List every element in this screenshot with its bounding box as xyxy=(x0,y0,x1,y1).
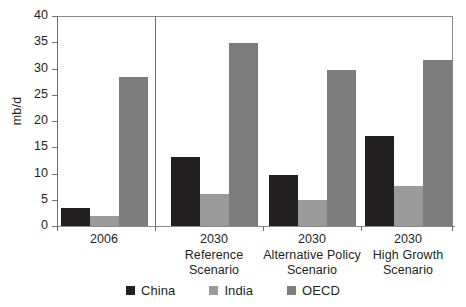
y-axis-tick-label: 0 xyxy=(41,218,48,232)
x-axis-tick xyxy=(263,226,264,231)
category-label-line: Scenario xyxy=(338,263,466,279)
y-axis-label: mb/d xyxy=(10,81,24,141)
chart-legend: ChinaIndiaOECD xyxy=(0,283,466,298)
y-axis-tick-label: 10 xyxy=(34,166,48,180)
y-axis-tick-label: 30 xyxy=(34,61,48,75)
x-axis-tick xyxy=(452,226,453,231)
category-label-line: High Growth xyxy=(338,248,466,264)
bar-china-2 xyxy=(269,175,298,226)
y-axis-tick-label: 15 xyxy=(34,139,48,153)
y-axis-tick-label: 25 xyxy=(34,87,48,101)
bar-china-0 xyxy=(61,208,90,226)
bar-india-1 xyxy=(200,194,229,226)
bar-chart: mb/d 0510152025303540 20062030ReferenceS… xyxy=(0,0,466,307)
y-axis-tick-label: 20 xyxy=(34,113,48,127)
category-label-line: 2030 xyxy=(338,232,466,248)
y-axis-tick-label: 40 xyxy=(34,8,48,22)
legend-item-oecd[interactable]: OECD xyxy=(287,283,340,298)
bar-china-1 xyxy=(171,157,200,226)
legend-label: India xyxy=(224,283,253,298)
bar-india-3 xyxy=(394,186,423,226)
bar-china-3 xyxy=(365,136,394,226)
bars-layer xyxy=(57,16,453,226)
legend-item-india[interactable]: India xyxy=(209,283,253,298)
x-axis-tick xyxy=(57,226,58,231)
x-axis-tick xyxy=(155,226,156,231)
legend-swatch-icon xyxy=(287,286,296,295)
bar-india-0 xyxy=(90,216,119,227)
legend-item-china[interactable]: China xyxy=(126,283,175,298)
legend-swatch-icon xyxy=(209,286,218,295)
legend-label: China xyxy=(141,283,175,298)
bar-oecd-1 xyxy=(229,43,258,226)
bar-india-2 xyxy=(298,200,327,226)
y-axis-tick-label: 35 xyxy=(34,34,48,48)
legend-swatch-icon xyxy=(126,286,135,295)
y-axis-tick-label: 5 xyxy=(41,192,48,206)
x-axis-category-label: 2030High GrowthScenario xyxy=(338,232,466,279)
bar-oecd-3 xyxy=(423,60,452,226)
x-axis-line xyxy=(57,226,455,227)
legend-label: OECD xyxy=(302,283,340,298)
bar-oecd-2 xyxy=(327,70,356,226)
x-axis-tick xyxy=(361,226,362,231)
bar-oecd-0 xyxy=(119,77,148,226)
